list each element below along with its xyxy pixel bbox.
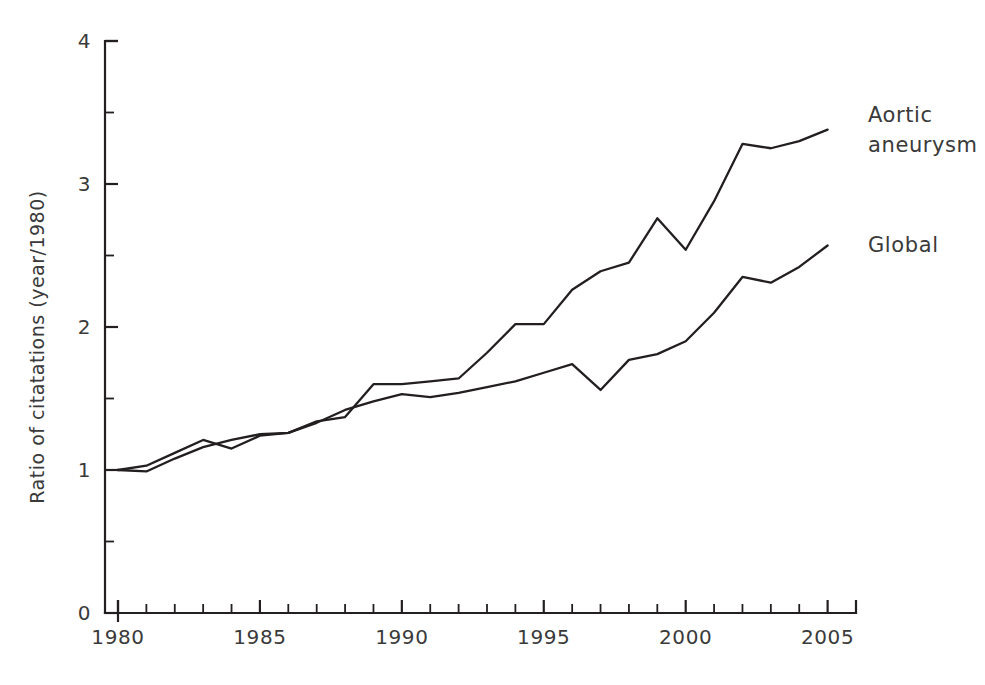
chart-tick-labels: 01234198019851990199520002005 xyxy=(78,29,855,649)
x-tick-label: 1990 xyxy=(375,625,428,649)
chart-series-lines xyxy=(118,130,828,472)
y-tick-label: 0 xyxy=(78,601,91,625)
series-line-aortic-aneurysm xyxy=(118,130,828,470)
chart-axes xyxy=(105,41,856,613)
series-line-global xyxy=(118,245,828,471)
series-label-aortic-aneurysm: aneurysm xyxy=(868,133,978,157)
series-label-aortic-aneurysm: Aortic xyxy=(868,103,933,127)
x-tick-label: 1995 xyxy=(517,625,570,649)
y-axis-title: Ratio of citatations (year/1980) xyxy=(26,190,48,503)
chart-page: 01234198019851990199520002005 Aorticaneu… xyxy=(0,0,985,685)
chart-series-annotations: AorticaneurysmGlobal xyxy=(868,103,978,258)
series-label-global: Global xyxy=(868,233,939,257)
y-tick-label: 4 xyxy=(78,29,91,53)
x-tick-label: 1985 xyxy=(233,625,286,649)
x-tick-label: 1980 xyxy=(91,625,144,649)
chart-axis-titles: Ratio of citatations (year/1980) xyxy=(26,190,48,503)
x-tick-label: 2000 xyxy=(659,625,712,649)
chart-ticks xyxy=(105,41,856,622)
x-tick-label: 2005 xyxy=(801,625,854,649)
citation-ratio-line-chart: 01234198019851990199520002005 Aorticaneu… xyxy=(0,0,985,685)
y-tick-label: 1 xyxy=(78,458,91,482)
y-tick-label: 2 xyxy=(78,315,91,339)
y-tick-label: 3 xyxy=(78,172,91,196)
